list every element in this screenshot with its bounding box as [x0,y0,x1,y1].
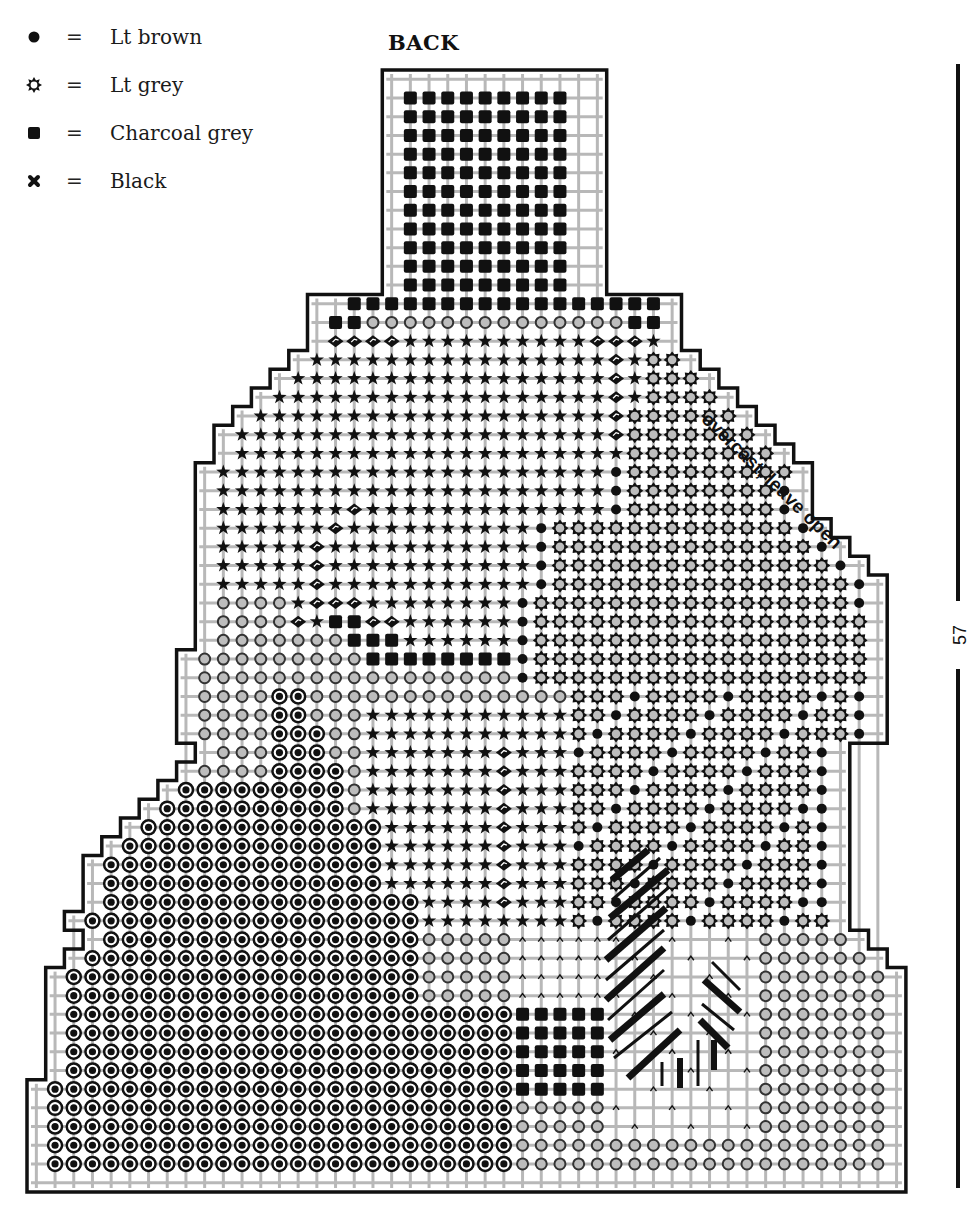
needlepoint-chart-back [0,0,972,1213]
dimension-label: 57 bars [948,601,972,669]
